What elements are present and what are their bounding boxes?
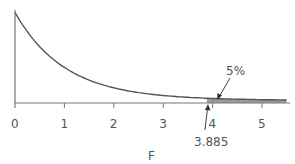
critical-value-arrowhead-icon [205,104,211,111]
x-axis-label: F [148,149,155,163]
x-tick-label: 5 [258,117,266,131]
x-tick-label: 0 [11,117,19,131]
x-tick-label: 3 [159,117,167,131]
f-distribution-chart: 012345 5% 3.885 F [0,0,295,164]
density-curve [15,13,287,101]
x-tick-label: 2 [110,117,118,131]
tail-arrow [219,78,230,97]
x-axis-ticks: 012345 [11,103,266,131]
critical-value-arrow [205,108,208,130]
x-tick-label: 4 [209,117,217,131]
x-tick-label: 1 [60,117,68,131]
critical-value-label: 3.885 [194,135,228,149]
tail-percent-label: 5% [226,64,245,78]
